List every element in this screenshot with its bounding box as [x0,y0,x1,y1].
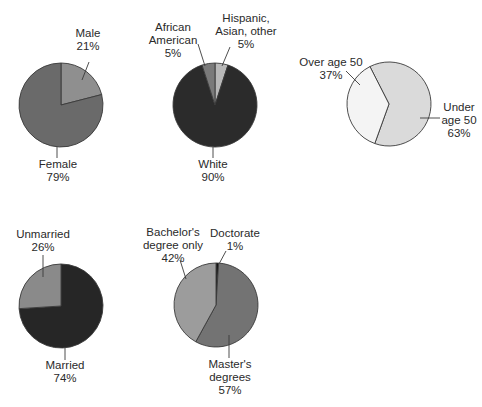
slice-label-white: White90% [198,158,227,183]
slice-label-over-age-50: Over age 5037% [299,56,362,81]
slice-label-unmarried: Unmarried26% [16,228,70,253]
slice-label-african-american: AfricanAmerican5% [149,21,198,59]
slice-label-female: Female79% [39,158,77,183]
slice-label-male: Male21% [76,27,101,52]
slice-label-master-s-degrees: Master'sdegrees57% [208,358,251,396]
slice-label-married: Married74% [46,359,85,384]
slice-label-doctorate: Doctorate1% [210,227,260,252]
pie-chart-education: Doctorate1%Master'sdegrees57%Bachelor'sd… [143,226,260,396]
pie-chart-gender: Male21%Female79% [19,27,103,183]
pie-chart-marital-status: Married74%Unmarried26% [16,228,103,384]
slice-label-bachelor-s-degree-only: Bachelor'sdegree only42% [143,226,203,264]
slice-label-under-age-50: Underage 5063% [441,101,476,139]
pie-slice-unmarried [19,264,61,309]
leader-line-doctorate [219,251,226,264]
pie-chart-ethnicity: Hispanic,Asian, other5%White90%AfricanAm… [149,12,277,183]
leader-line-hispanic-asian-other [222,47,230,66]
pie-chart-age: Underage 5063%Over age 5037% [299,56,476,146]
slice-label-hispanic-asian-other: Hispanic,Asian, other5% [215,12,277,50]
pie-charts-figure: Male21%Female79% Hispanic,Asian, other5%… [0,0,482,407]
leader-line-african-american [198,44,205,66]
